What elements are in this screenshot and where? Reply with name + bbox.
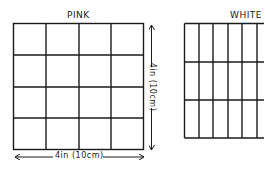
diagram-canvas: PINK WHITE 4in (10cm) 4in (10cm) [0, 0, 264, 172]
height-label: 4in (10cm) [148, 62, 156, 112]
pink-title: PINK [67, 11, 90, 20]
white-title: WHITE [230, 11, 262, 20]
white-grid [185, 24, 265, 139]
width-label: 4in (10cm) [55, 152, 104, 160]
diagram-svg [0, 0, 264, 172]
pink-grid [14, 24, 144, 150]
